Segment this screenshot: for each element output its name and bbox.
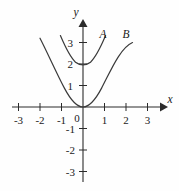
y-tick-label: -1: [66, 123, 75, 135]
x-tick-label: 1: [102, 114, 108, 126]
y-tick-label: -3: [66, 166, 76, 178]
y-axis-label: y: [72, 6, 79, 19]
curve-b-label: B: [122, 28, 129, 40]
curve-b-path: [40, 38, 133, 107]
origin-label: 0: [74, 112, 80, 124]
x-tick-label: -2: [35, 114, 44, 126]
graph-figure: y x 0 -3 -2 -1 1 2 3 3 2 1 -1 -2 -3 A B: [0, 0, 179, 191]
x-tick-label: -3: [14, 114, 24, 126]
y-tick-label: 2: [68, 58, 74, 70]
y-tick-label: -2: [66, 144, 75, 156]
curve-a-label: A: [98, 28, 107, 40]
x-tick-label: 3: [145, 114, 151, 126]
x-tick-label: -1: [57, 114, 66, 126]
x-tick-label: 2: [123, 114, 129, 126]
coordinate-plot: y x 0 -3 -2 -1 1 2 3 3 2 1 -1 -2 -3 A B: [0, 0, 179, 191]
y-axis-arrow-icon: [79, 19, 88, 27]
y-tick-label: 3: [68, 37, 74, 49]
x-axis-label: x: [166, 93, 173, 105]
y-tick-label: 1: [68, 80, 74, 92]
